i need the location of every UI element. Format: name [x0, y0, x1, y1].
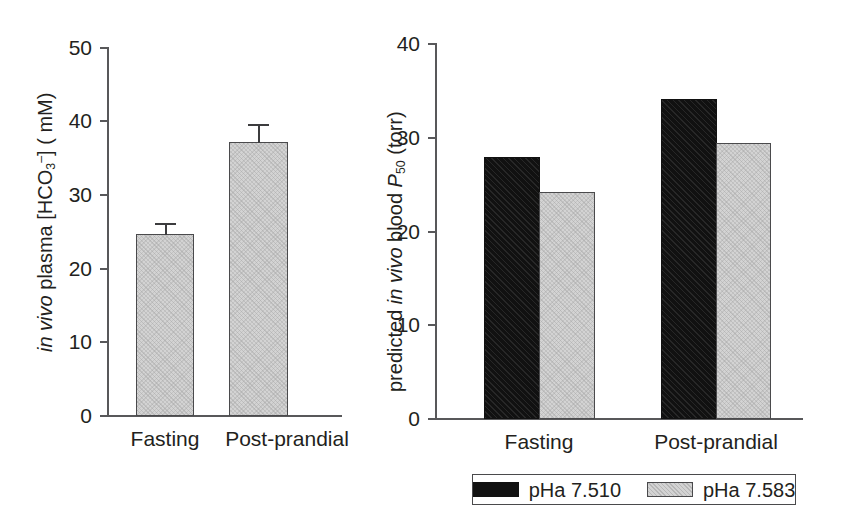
panel-predicted-p50: predicted in vivo blood P50 (torr) 40 30… — [350, 0, 853, 470]
right-y-tick-label-0: 0 — [374, 408, 420, 429]
legend: pHa 7.510 pHa 7.583 — [472, 474, 796, 505]
right-category-label-post-prandial: Post-prandial — [626, 431, 806, 453]
legend-label-pha-7510: pHa 7.510 — [529, 480, 621, 500]
right-category-label-fasting: Fasting — [479, 431, 599, 453]
right-y-axis-title: predicted in vivo blood P50 (torr) — [384, 111, 406, 392]
left-y-axis-line — [107, 47, 109, 417]
right-y-tick-20 — [428, 231, 437, 233]
left-y-tick-50 — [100, 47, 109, 49]
left-y-tick-40 — [100, 120, 109, 122]
right-y-tick-label-30: 30 — [374, 127, 420, 148]
left-y-tick-0 — [100, 415, 109, 417]
legend-swatch-grey-icon — [647, 482, 693, 497]
left-y-axis-title: in vivo plasma [HCO3–] ( mM) — [34, 93, 56, 352]
error-bar-post-prandial-bicarbonate — [248, 124, 269, 143]
legend-entry-pha-7583: pHa 7.583 — [647, 480, 795, 500]
right-y-tick-30 — [428, 137, 437, 139]
legend-label-pha-7583: pHa 7.583 — [703, 480, 795, 500]
right-y-tick-40 — [428, 43, 437, 45]
bar-post-prandial-bicarbonate — [229, 142, 288, 416]
left-y-tick-label-0: 0 — [46, 405, 92, 426]
left-y-tick-20 — [100, 268, 109, 270]
bar-post-prandial-pha-7583 — [716, 143, 771, 419]
left-y-tick-label-50: 50 — [46, 37, 92, 58]
left-y-tick-10 — [100, 341, 109, 343]
bar-fasting-pha-7510 — [484, 157, 540, 419]
left-y-tick-label-20: 20 — [46, 258, 92, 279]
right-y-tick-label-10: 10 — [374, 314, 420, 335]
left-y-tick-label-30: 30 — [46, 184, 92, 205]
figure-two-panel-bar-charts: in vivo plasma [HCO3–] ( mM) 50 40 30 20… — [0, 0, 853, 532]
right-y-tick-10 — [428, 324, 437, 326]
right-y-tick-label-40: 40 — [374, 33, 420, 54]
bar-fasting-pha-7583 — [539, 192, 595, 419]
left-y-tick-label-10: 10 — [46, 331, 92, 352]
bar-fasting-bicarbonate — [136, 234, 194, 416]
right-y-tick-0 — [428, 418, 437, 420]
bar-post-prandial-pha-7510 — [661, 99, 717, 419]
panel-plasma-bicarbonate: in vivo plasma [HCO3–] ( mM) 50 40 30 20… — [0, 0, 400, 470]
error-bar-fasting-bicarbonate — [155, 223, 176, 235]
left-y-tick-label-40: 40 — [46, 110, 92, 131]
left-y-tick-30 — [100, 194, 109, 196]
legend-entry-pha-7510: pHa 7.510 — [473, 480, 621, 500]
right-y-tick-label-20: 20 — [374, 221, 420, 242]
legend-swatch-black-icon — [473, 482, 519, 497]
